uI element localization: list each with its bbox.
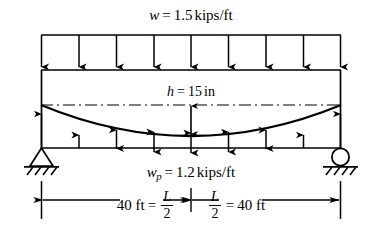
pin-support-triangle xyxy=(30,148,53,166)
depth-symbol: h xyxy=(167,84,174,99)
tendon-load-equals: = xyxy=(165,164,173,180)
top-load-label: w=1.5kips/ft xyxy=(0,8,382,23)
tendon-load-subscript: p xyxy=(156,170,161,182)
roller-support-circle xyxy=(332,148,349,165)
top-distributed-load-group xyxy=(41,35,341,67)
top-load-arrows xyxy=(42,35,341,67)
tendon-load-label: wp=1.2kips/ft xyxy=(0,165,382,182)
top-load-equals: = xyxy=(162,7,170,23)
beam-diagram-svg xyxy=(0,0,382,235)
depth-equals: = xyxy=(177,84,185,99)
depth-label: h=15in xyxy=(0,85,382,99)
depth-value: 15 xyxy=(188,84,202,99)
top-load-value: 1.5 xyxy=(174,7,193,23)
span-dimension-line xyxy=(42,181,341,219)
beam-diagram-figure: w=1.5kips/ft h=15in wp=1.2kips/ft 40 ft … xyxy=(0,0,382,235)
top-load-units: kips/ft xyxy=(194,7,232,23)
depth-units: in xyxy=(204,84,215,99)
tendon-load-value: 1.2 xyxy=(176,164,195,180)
top-load-symbol: w xyxy=(149,7,159,23)
tendon-load-units: kips/ft xyxy=(197,164,235,180)
